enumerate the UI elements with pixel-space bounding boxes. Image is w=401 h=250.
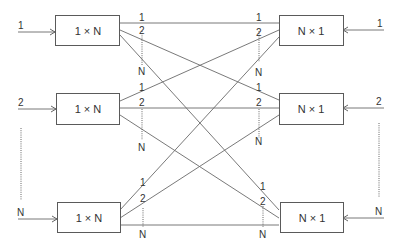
combiner-label: N × 1 [298,103,325,115]
port-label: 2 [260,196,266,207]
splitter-3: 1 × N [58,203,121,233]
port-label: N [259,229,266,240]
port-label: N [255,67,262,78]
left-inputs [18,29,57,222]
combiner-2: N × 1 [280,94,344,125]
splitter-label: 1 × N [76,212,103,224]
port-label: 2 [256,27,262,38]
input-label-1: 1 [18,20,24,31]
port-label: 2 [140,193,146,204]
port-label: N [255,136,262,147]
splitter-1: 1 × N [56,16,120,46]
combiner-input-label-1: 1 [377,18,383,29]
combiner-label: N × 1 [299,212,326,224]
port-label: 2 [139,97,145,108]
port-label: 1 [140,177,146,188]
port-label: N [138,66,145,77]
port-label: 1 [139,12,145,23]
port-label: 1 [139,82,145,93]
combiner-input-label-2: 2 [376,96,382,107]
port-label: 2 [256,97,262,108]
splitter-label: 1 × N [75,25,102,37]
combiner-3: N × 1 [281,203,344,233]
port-label: N [138,142,145,153]
port-label: 1 [256,82,262,93]
combiner-port-labels: 1 2 N 1 2 N 1 2 N [255,12,266,240]
port-label: 1 [260,181,266,192]
input-label-N: N [17,207,24,218]
input-label-2: 2 [18,97,24,108]
right-inputs [343,27,384,221]
combiner-label: N × 1 [298,25,325,37]
port-ellipsis-markers [142,31,263,227]
crossconnect-diagram: 1 2 N 1 2 N 1 [0,0,401,250]
combiner-input-label-N: N [375,206,382,217]
port-label: 1 [256,12,262,23]
combiner-1: N × 1 [280,16,344,46]
splitter-2: 1 × N [57,94,120,125]
port-label: 2 [139,25,145,36]
port-label: N [139,229,146,240]
splitter-label: 1 × N [75,103,102,115]
